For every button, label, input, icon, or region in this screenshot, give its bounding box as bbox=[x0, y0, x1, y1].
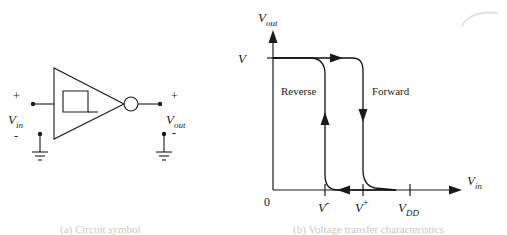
y-axis-label: V out bbox=[258, 10, 278, 28]
input-voltage-label: V in bbox=[8, 112, 24, 130]
x-axis-label-sub: in bbox=[475, 181, 483, 191]
y-tick-label-vdd: V bbox=[238, 51, 248, 66]
x-tick-vplus-sup: + bbox=[363, 197, 369, 208]
y-axis-label-sub: out bbox=[266, 18, 278, 28]
inverting-bubble bbox=[124, 97, 138, 111]
reverse-bottom-arrow bbox=[337, 186, 350, 195]
hysteresis-glyph bbox=[63, 91, 98, 112]
caption-b: (b) Voltage transfer characteristics bbox=[293, 223, 444, 235]
scan-artifact bbox=[462, 12, 497, 26]
circuit-symbol-group: + - V in + - V out bbox=[8, 68, 186, 160]
output-terminal-dot bbox=[158, 102, 162, 106]
forward-top-arrow bbox=[330, 54, 343, 63]
x-axis-arrowhead bbox=[449, 186, 462, 195]
annotation-reverse: Reverse bbox=[281, 85, 317, 97]
transfer-characteristic-group: V out V in 0 V V - bbox=[238, 10, 483, 218]
x-tick-vdd-sub: DD bbox=[405, 208, 419, 218]
input-minus-sign: - bbox=[14, 129, 18, 143]
caption-a: (a) Circuit symbol bbox=[60, 223, 141, 235]
input-ground-symbol bbox=[32, 132, 48, 160]
output-voltage-sub: out bbox=[174, 120, 186, 130]
y-axis-arrowhead bbox=[269, 30, 278, 43]
x-tick-label-vminus: V - bbox=[318, 197, 329, 215]
reverse-up-arrow bbox=[321, 112, 330, 125]
output-voltage-label: V out bbox=[166, 112, 186, 130]
series-forward bbox=[273, 54, 396, 191]
amplifier-triangle bbox=[54, 68, 124, 139]
input-plus-sign: + bbox=[13, 89, 20, 103]
output-ground-symbol bbox=[156, 132, 172, 160]
input-terminal-dot bbox=[31, 102, 35, 106]
series-reverse bbox=[273, 58, 396, 195]
input-voltage-sub: in bbox=[16, 120, 24, 130]
output-plus-sign: + bbox=[171, 89, 178, 103]
y-tick-vdd-main: V bbox=[238, 51, 248, 66]
annotation-forward: Forward bbox=[372, 85, 410, 97]
x-axis-label: V in bbox=[467, 173, 483, 191]
figure-container: + - V in + - V out bbox=[0, 0, 507, 235]
origin-label: 0 bbox=[264, 195, 270, 209]
x-tick-vminus-sup: - bbox=[326, 197, 329, 208]
x-tick-label-vdd: V DD bbox=[398, 200, 419, 218]
x-tick-label-vplus: V + bbox=[355, 197, 369, 215]
figure-svg: + - V in + - V out bbox=[0, 0, 507, 235]
forward-down-arrow bbox=[359, 109, 368, 122]
